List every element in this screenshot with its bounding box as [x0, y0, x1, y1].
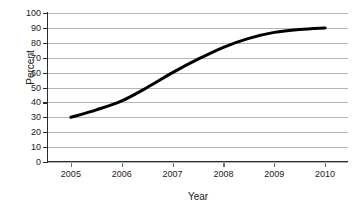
- x-axis-tick-label: 2006: [102, 169, 142, 179]
- x-axis-tick: [71, 163, 72, 167]
- x-axis-tick: [223, 163, 224, 167]
- gridline-y: [48, 13, 348, 14]
- y-axis-tick-label: 70: [15, 54, 41, 63]
- x-axis-tick: [173, 163, 174, 167]
- y-axis-tick-label: 80: [15, 39, 41, 48]
- y-axis-tick-label: 50: [15, 84, 41, 93]
- y-axis-tick: [43, 117, 48, 118]
- y-axis-tick: [43, 58, 48, 59]
- y-axis-tick: [43, 88, 48, 89]
- y-axis-tick: [43, 162, 48, 163]
- x-axis-spine: [47, 161, 348, 162]
- gridline-y: [48, 117, 348, 118]
- x-axis-tick-label: 2007: [153, 169, 193, 179]
- y-axis-tick: [43, 132, 48, 133]
- y-axis-tick-label: 60: [15, 69, 41, 78]
- y-axis-tick: [43, 43, 48, 44]
- y-axis-tick-label: 90: [15, 24, 41, 33]
- y-axis-tick: [43, 102, 48, 103]
- gridline-y: [48, 28, 348, 29]
- y-axis-tick-label: 40: [15, 98, 41, 107]
- gridline-y: [48, 132, 348, 133]
- plot-area: [48, 13, 348, 162]
- gridline-y: [48, 58, 348, 59]
- x-axis-tick: [122, 163, 123, 167]
- x-axis-tick-label: 2010: [305, 169, 345, 179]
- gridline-y: [48, 43, 348, 44]
- gridline-y: [48, 147, 348, 148]
- y-axis-tick-label: 100: [15, 9, 41, 18]
- x-axis-tick-label: 2009: [254, 169, 294, 179]
- y-axis-tick-label: 20: [15, 128, 41, 137]
- y-axis-tick: [43, 28, 48, 29]
- y-axis-tick-label: 30: [15, 113, 41, 122]
- y-axis-tick: [43, 13, 48, 14]
- x-axis-title: Year: [48, 191, 348, 202]
- x-axis-tick-label: 2005: [51, 169, 91, 179]
- x-axis-tick-label: 2008: [203, 169, 243, 179]
- y-axis-tick-label: 0: [15, 158, 41, 167]
- y-axis-tick: [43, 147, 48, 148]
- gridline-y: [48, 73, 348, 74]
- gridline-y: [48, 88, 348, 89]
- x-axis-tick: [274, 163, 275, 167]
- y-axis-tick: [43, 73, 48, 74]
- x-axis-tick: [325, 163, 326, 167]
- y-axis-tick-label: 10: [15, 143, 41, 152]
- chart-figure: Percent Year 010203040506070809010020052…: [0, 0, 359, 217]
- gridline-y: [48, 102, 348, 103]
